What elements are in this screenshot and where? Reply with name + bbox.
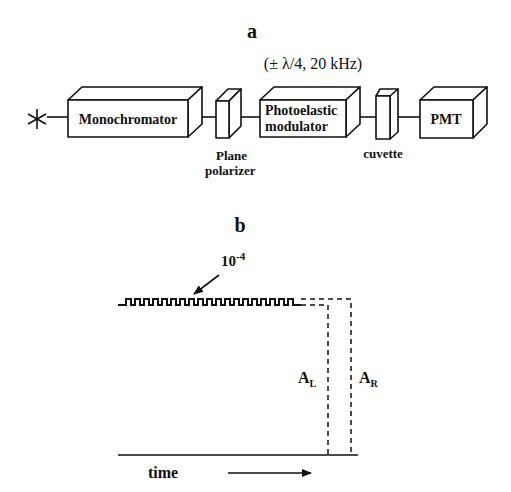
panel-b-label: b — [234, 214, 245, 236]
pmt-label: PMT — [430, 112, 462, 127]
photoelastic-modulator-label-line2: modulator — [265, 119, 328, 134]
plane-polarizer-box: Plane polarizer — [205, 89, 256, 178]
panel-a-label: a — [247, 20, 257, 42]
amplitude-arrow-icon — [194, 275, 219, 294]
modulation-note: (± λ/4, 20 kHz) — [264, 55, 362, 73]
photoelastic-modulator-label-line1: Photoelastic — [265, 103, 337, 118]
cuvette-box: cuvette — [363, 89, 403, 161]
panel-a: a (± λ/4, 20 kHz) Monochromator — [28, 20, 487, 178]
al-label: AL — [298, 369, 317, 389]
cd-spectrometer-diagram: a (± λ/4, 20 kHz) Monochromator — [0, 0, 511, 492]
modulated-signal-wave — [118, 299, 301, 305]
monochromator-box: Monochromator — [68, 87, 202, 137]
al-letter: A — [298, 369, 310, 386]
light-source-icon — [28, 109, 46, 129]
amplitude-base: 10 — [221, 253, 236, 269]
ar-letter: A — [359, 369, 371, 386]
al-subscript: L — [310, 378, 317, 389]
plane-polarizer-label-line2: polarizer — [205, 163, 256, 178]
amplitude-label: 10-4 — [221, 250, 246, 269]
pmt-box: PMT — [420, 87, 487, 138]
ar-subscript: R — [371, 378, 379, 389]
monochromator-label: Monochromator — [79, 112, 178, 127]
photoelastic-modulator-box: Photoelastic modulator — [260, 87, 360, 137]
cuvette-label: cuvette — [363, 146, 403, 161]
panel-b: b 10-4 AL AR time — [118, 214, 379, 481]
amplitude-exponent: -4 — [236, 250, 246, 262]
time-axis-label: time — [148, 464, 178, 481]
ar-label: AR — [359, 369, 379, 389]
plane-polarizer-label-line1: Plane — [216, 148, 247, 163]
